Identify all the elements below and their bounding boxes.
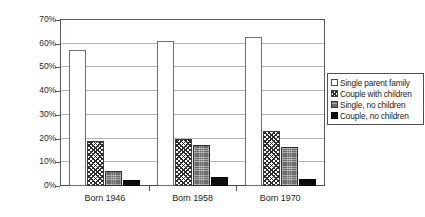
y-axis-tick-label: 60%: [12, 38, 56, 48]
legend-label: Single, no children: [340, 100, 405, 110]
legend-swatch-couple-with-children: [331, 90, 338, 97]
legend-swatch-couple-no-children: [331, 112, 338, 119]
bar-chart: 0%10%20%30%40%50%60%70% Born 1946Born 19…: [0, 0, 425, 217]
chart-legend: Single parent family Couple with childre…: [327, 73, 424, 125]
bar: [211, 177, 228, 186]
legend-label: Couple, no children: [340, 111, 409, 121]
bar: [123, 180, 140, 186]
y-axis-tick-label: 70%: [12, 14, 56, 24]
bar: [87, 141, 104, 186]
legend-label: Single parent family: [340, 78, 410, 88]
legend-swatch-single-no-children: [331, 101, 338, 108]
bar-series-container: [61, 20, 324, 186]
legend-swatch-single-parent-family: [331, 79, 338, 86]
bar: [245, 37, 262, 186]
bar: [263, 131, 280, 186]
legend-item: Couple with children: [331, 88, 421, 99]
y-axis-tick-label: 0%: [12, 180, 56, 190]
y-axis-tick-label: 30%: [12, 109, 56, 119]
legend-item: Couple, no children: [331, 110, 421, 121]
x-axis-tick: [236, 186, 237, 191]
x-axis-tick-label: Born 1970: [236, 193, 324, 203]
bar: [299, 179, 316, 186]
legend-item: Single, no children: [331, 99, 421, 110]
y-axis-tick-label: 50%: [12, 61, 56, 71]
bar-group: [236, 20, 324, 186]
legend-label: Couple with children: [340, 89, 412, 99]
bar-group: [61, 20, 149, 186]
bar: [69, 50, 86, 186]
y-axis-tick-label: 40%: [12, 85, 56, 95]
y-axis-tick-label: 10%: [12, 156, 56, 166]
bar: [193, 145, 210, 187]
x-axis-tick: [149, 186, 150, 191]
bar: [281, 147, 298, 186]
x-axis-tick-label: Born 1946: [61, 193, 149, 203]
bar: [175, 139, 192, 186]
legend-item: Single parent family: [331, 77, 421, 88]
x-axis-tick-label: Born 1958: [149, 193, 237, 203]
bar-group: [149, 20, 237, 186]
y-axis-tick-label: 20%: [12, 133, 56, 143]
bar: [105, 171, 122, 186]
bar: [157, 41, 174, 186]
